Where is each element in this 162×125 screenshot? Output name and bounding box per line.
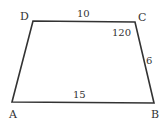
side-length-dc: 10 [77, 8, 90, 19]
vertex-label-a: A [8, 108, 18, 121]
angle-measure-c: 120 [112, 27, 131, 38]
vertex-label-d: D [20, 10, 29, 23]
side-length-cb: 6 [146, 55, 152, 66]
vertex-label-b: B [151, 108, 159, 121]
side-length-ab: 15 [73, 89, 86, 100]
vertex-label-c: C [138, 11, 146, 24]
trapezoid-diagram: D C A B 10 120 6 15 [0, 0, 162, 125]
